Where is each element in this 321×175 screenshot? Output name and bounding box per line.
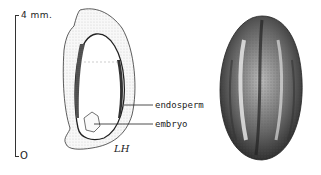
artist-signature: LH — [114, 143, 129, 154]
embryo-label: embryo — [155, 119, 188, 129]
seed-section-drawing — [63, 9, 153, 149]
seed-illustrations — [0, 0, 321, 175]
seed-external-drawing — [220, 16, 302, 160]
endosperm-label: endosperm — [155, 100, 204, 110]
